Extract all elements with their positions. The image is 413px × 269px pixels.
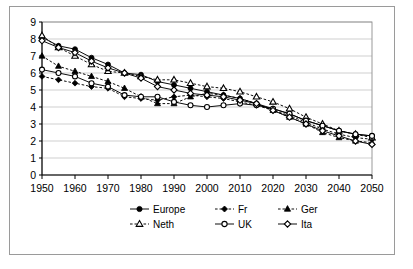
legend-marker-uk — [222, 221, 227, 226]
data-point-uk — [89, 81, 94, 86]
legend-entry-europe[interactable]: Europe — [130, 204, 186, 215]
data-point-neth — [253, 93, 259, 99]
data-point-neth — [187, 80, 193, 86]
data-point-ita — [171, 87, 177, 93]
legend-label: Ita — [301, 219, 313, 230]
x-tick-label: 2050 — [360, 182, 384, 194]
data-point-ita — [154, 84, 160, 90]
x-tick-label: 1990 — [162, 182, 186, 194]
data-point-uk — [353, 132, 358, 137]
data-point-uk — [172, 99, 177, 104]
data-point-ger — [72, 68, 78, 73]
x-axis-ticks — [42, 175, 372, 179]
data-point-uk — [370, 133, 375, 138]
data-point-uk — [73, 74, 78, 79]
y-tick-label: 7 — [30, 50, 36, 62]
data-point-fr — [56, 77, 62, 83]
x-tick-label: 2000 — [195, 182, 219, 194]
legend-label: Fr — [238, 204, 248, 215]
legend-marker-fr — [222, 206, 228, 212]
series-ita — [39, 38, 375, 148]
data-point-uk — [188, 103, 193, 108]
data-point-ger — [56, 63, 62, 68]
data-point-fr — [72, 80, 78, 86]
legend-entry-ger[interactable]: Ger — [278, 204, 318, 215]
legend-marker-europe — [137, 206, 142, 211]
data-point-fr — [39, 74, 45, 80]
data-point-fr — [171, 94, 177, 100]
data-point-uk — [56, 71, 61, 76]
data-point-ger — [39, 53, 45, 58]
x-tick-label: 2020 — [261, 182, 285, 194]
data-point-uk — [122, 93, 127, 98]
x-axis-tick-labels: 1950196019701980199020002010202020302040… — [30, 182, 384, 194]
data-point-neth — [171, 76, 177, 82]
chart-screenshot: 0123456789 19501960197019801990200020102… — [0, 0, 413, 269]
legend-label: Europe — [153, 204, 186, 215]
x-tick-label: 2040 — [327, 182, 351, 194]
data-point-uk — [205, 105, 210, 110]
y-tick-label: 0 — [30, 169, 36, 181]
x-tick-label: 2030 — [294, 182, 318, 194]
legend-label: UK — [238, 219, 252, 230]
legend-marker-ger — [284, 206, 290, 212]
x-tick-label: 1960 — [63, 182, 87, 194]
y-tick-label: 3 — [30, 118, 36, 130]
chart-canvas: 0123456789 19501960197019801990200020102… — [0, 0, 413, 269]
y-tick-label: 4 — [30, 101, 36, 113]
data-point-uk — [106, 84, 111, 89]
legend-label: Neth — [153, 219, 174, 230]
data-point-uk — [40, 67, 45, 72]
data-point-uk — [155, 94, 160, 99]
data-point-neth — [270, 99, 276, 105]
y-tick-label: 2 — [30, 135, 36, 147]
chart-legend: EuropeFrGerNethUKIta — [130, 204, 318, 230]
x-tick-label: 1950 — [30, 182, 54, 194]
x-tick-label: 2010 — [228, 182, 252, 194]
legend-marker-neth — [136, 221, 143, 227]
data-point-uk — [139, 94, 144, 99]
line-chart: 0123456789 19501960197019801990200020102… — [0, 0, 413, 269]
y-tick-label: 5 — [30, 84, 36, 96]
x-tick-label: 1980 — [129, 182, 153, 194]
data-point-neth — [237, 88, 243, 94]
data-point-neth — [286, 105, 292, 111]
data-point-uk — [221, 103, 226, 108]
y-tick-label: 8 — [30, 33, 36, 45]
legend-marker-ita — [284, 221, 290, 227]
y-tick-label: 1 — [30, 152, 36, 164]
y-tick-label: 6 — [30, 67, 36, 79]
legend-entry-uk[interactable]: UK — [215, 219, 252, 230]
x-tick-label: 1970 — [96, 182, 120, 194]
legend-entry-neth[interactable]: Neth — [130, 219, 174, 230]
y-tick-label: 9 — [30, 16, 36, 28]
legend-entry-fr[interactable]: Fr — [215, 204, 248, 215]
legend-entry-ita[interactable]: Ita — [278, 219, 313, 230]
legend-label: Ger — [301, 204, 318, 215]
